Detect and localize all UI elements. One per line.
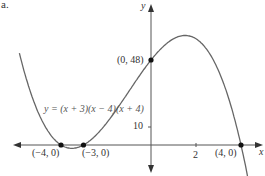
point-label-4-0: (4, 0) (215, 147, 237, 158)
y-tick-label-10: 10 (133, 120, 143, 131)
x-axis-label: x (259, 146, 263, 157)
point-label-neg3-0: (−3, 0) (82, 147, 109, 158)
y-axis-label: y (141, 0, 145, 11)
equation-label: y = (x + 3)(x − 4)(x + 4) (44, 103, 144, 114)
point-4-0 (238, 142, 243, 147)
y-axis-top-arrow-icon (148, 4, 154, 12)
x-tick-label-2: 2 (193, 149, 198, 160)
x-axis-left-arrow-icon (13, 142, 21, 148)
point-label-neg4-0: (−4, 0) (32, 147, 59, 158)
y-axis-bottom-arrow-icon (148, 165, 154, 173)
point-0-48 (148, 57, 153, 62)
point-label-0-48: (0, 48) (117, 54, 144, 65)
